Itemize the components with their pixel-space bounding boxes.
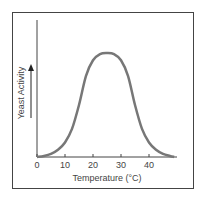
x-tick-label: 0 (34, 160, 39, 170)
y-arrow (28, 64, 34, 118)
x-tick-label: 10 (60, 160, 70, 170)
arrow-up-icon (28, 64, 34, 71)
x-tick-label: 40 (144, 160, 154, 170)
x-axis-label: Temperature (°C) (72, 173, 141, 183)
x-tick-label: 20 (88, 160, 98, 170)
x-tick-label: 30 (116, 160, 126, 170)
y-axis-label: Yeast Activity (16, 66, 26, 119)
chart: 010203040 Yeast Activity Temperature (°C… (0, 0, 210, 202)
series-line-yeast-activity (37, 53, 174, 157)
